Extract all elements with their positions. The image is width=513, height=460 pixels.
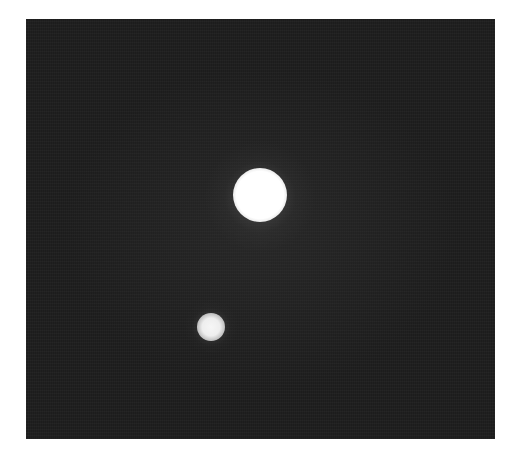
large-spot — [233, 168, 287, 222]
photo-frame — [26, 19, 495, 439]
small-spot — [197, 313, 225, 341]
